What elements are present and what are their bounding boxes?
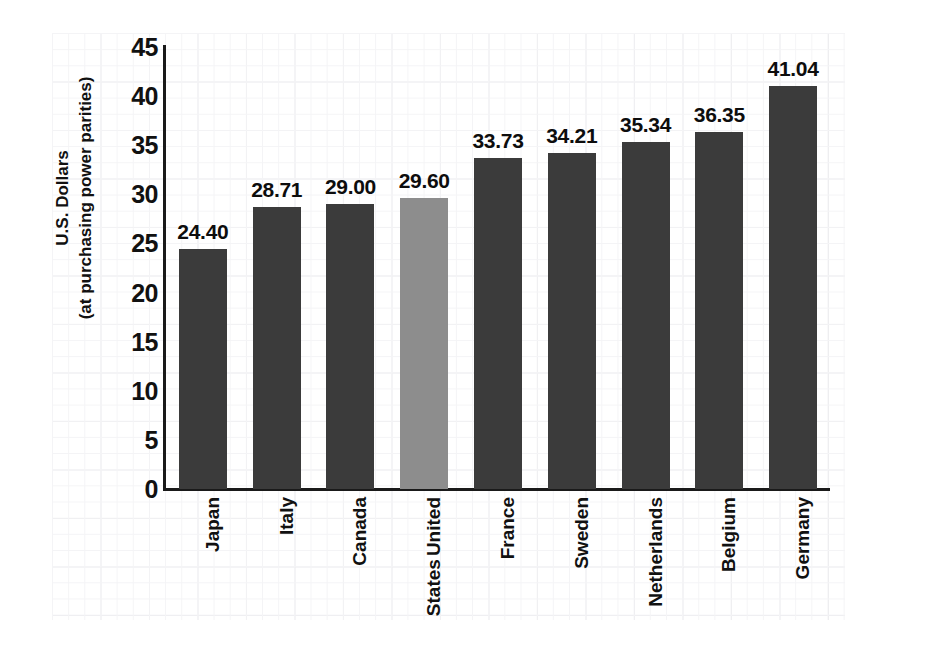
- x-tick-label-line: Belgium: [719, 497, 739, 572]
- y-tick-label: 0: [112, 477, 158, 502]
- bar-belgium[interactable]: [695, 132, 743, 489]
- bar-value-label: 36.35: [671, 103, 767, 127]
- y-tick-label: 15: [112, 329, 158, 354]
- bar-value-label: 41.04: [745, 57, 841, 81]
- x-tick-label-line: Sweden: [572, 497, 592, 569]
- bar-slot: 34.21: [548, 47, 596, 489]
- x-tick-label-canada: Canada: [326, 497, 374, 627]
- x-tick-label-line: Germany: [793, 497, 813, 579]
- y-axis-tick-labels: 454035302520151050: [106, 47, 158, 489]
- bar-slot: 36.35: [695, 47, 743, 489]
- y-tick-label: 5: [112, 427, 158, 452]
- bar-slot: 29.60: [400, 47, 448, 489]
- bar-germany[interactable]: [769, 86, 817, 489]
- x-tick-label-france: France: [474, 497, 522, 627]
- x-tick-label-line: Italy: [277, 497, 297, 535]
- x-tick-label-sweden: Sweden: [548, 497, 596, 627]
- y-tick-label: 30: [112, 182, 158, 207]
- y-axis-title-line-2: (at purchasing power parities): [75, 63, 98, 333]
- chart-page: 454035302520151050 U.S. Dollars (at purc…: [0, 0, 931, 664]
- x-tick-label-line: Canada: [350, 497, 370, 566]
- y-tick-label: 45: [112, 35, 158, 60]
- bar-slot: 29.00: [326, 47, 374, 489]
- bar-slot: 35.34: [622, 47, 670, 489]
- bar-france[interactable]: [474, 158, 522, 489]
- x-tick-label-netherlands: Netherlands: [622, 497, 670, 627]
- x-tick-label-line: France: [498, 497, 518, 559]
- bar-japan[interactable]: [179, 249, 227, 489]
- x-tick-label-line: Japan: [203, 497, 223, 552]
- bar-slot: 33.73: [474, 47, 522, 489]
- bar-slot: 41.04: [769, 47, 817, 489]
- y-tick-label: 35: [112, 133, 158, 158]
- x-tick-label-japan: Japan: [179, 497, 227, 627]
- bar-united-states[interactable]: [400, 198, 448, 489]
- bar-italy[interactable]: [253, 207, 301, 489]
- bar-canada[interactable]: [326, 204, 374, 489]
- x-tick-label-line: Netherlands: [646, 497, 666, 607]
- bar-sweden[interactable]: [548, 153, 596, 489]
- bar-slot: 24.40: [179, 47, 227, 489]
- y-axis-title-line-1: U.S. Dollars: [52, 63, 75, 333]
- y-tick-label: 25: [112, 231, 158, 256]
- bar-series: 24.4028.7129.0029.6033.7334.2135.3436.35…: [166, 47, 830, 489]
- y-tick-label: 40: [112, 84, 158, 109]
- y-tick-label: 10: [112, 378, 158, 403]
- x-tick-label-belgium: Belgium: [695, 497, 743, 627]
- x-tick-label-line: United: [424, 497, 444, 556]
- bar-value-label: 29.60: [376, 169, 472, 193]
- bar-value-label: 24.40: [155, 220, 251, 244]
- bar-slot: 28.71: [253, 47, 301, 489]
- x-tick-label-italy: Italy: [253, 497, 301, 627]
- bar-netherlands[interactable]: [622, 142, 670, 489]
- x-tick-label-line: States: [424, 559, 444, 616]
- x-tick-label-germany: Germany: [769, 497, 817, 627]
- x-axis-category-labels: JapanItalyCanadaUnitedStatesFranceSweden…: [166, 497, 830, 627]
- y-tick-label: 20: [112, 280, 158, 305]
- x-tick-label-united-states: UnitedStates: [400, 497, 448, 627]
- y-axis-title: U.S. Dollars (at purchasing power pariti…: [52, 63, 98, 333]
